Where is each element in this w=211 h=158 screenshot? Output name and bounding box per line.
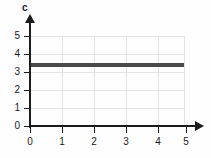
gridline-vertical	[94, 36, 95, 126]
y-axis-tick	[24, 108, 30, 109]
y-axis-tick-label: 2	[4, 85, 20, 95]
y-axis-tick-label: 5	[4, 31, 20, 41]
y-axis-tick-label: 3	[4, 67, 20, 77]
x-axis-tick	[158, 127, 159, 133]
gridline-vertical	[126, 36, 127, 126]
x-axis-tick-label: 5	[176, 137, 196, 147]
y-axis-tick-label: 4	[4, 49, 20, 59]
y-axis-arrow-icon	[25, 14, 35, 23]
data-series-line	[30, 63, 184, 67]
x-axis-tick	[62, 127, 63, 133]
gridline-horizontal	[30, 36, 184, 37]
y-axis-tick-label: 0	[4, 121, 20, 131]
x-axis-tick	[94, 127, 95, 133]
x-axis-tick-label: 1	[52, 137, 72, 147]
gridline-horizontal	[30, 54, 184, 55]
x-axis-tick-label: 2	[84, 137, 104, 147]
x-axis-tick	[30, 127, 31, 133]
x-axis-tick	[126, 127, 127, 133]
x-axis-tick-label: 3	[116, 137, 136, 147]
y-axis-tick-label: 1	[4, 103, 20, 113]
y-axis-line	[29, 22, 31, 128]
x-axis-line	[29, 125, 197, 127]
line-chart: c 5 4 3 2 1 0 0 1 2 3 4 5	[0, 0, 211, 158]
gridline-vertical	[184, 36, 185, 126]
x-axis-tick-label: 0	[20, 137, 40, 147]
gridline-vertical	[158, 36, 159, 126]
gridline-vertical	[62, 36, 63, 126]
x-axis-tick	[186, 127, 187, 133]
gridline-horizontal	[30, 108, 184, 109]
y-axis-tick	[24, 72, 30, 73]
x-axis-tick-label: 4	[148, 137, 168, 147]
x-axis-arrow-icon	[195, 121, 204, 131]
y-axis-label: c	[22, 2, 28, 13]
gridline-horizontal	[30, 90, 184, 91]
gridline-horizontal	[30, 72, 184, 73]
y-axis-tick	[24, 36, 30, 37]
plot-area	[30, 36, 190, 126]
y-axis-tick	[24, 90, 30, 91]
y-axis-tick	[24, 54, 30, 55]
